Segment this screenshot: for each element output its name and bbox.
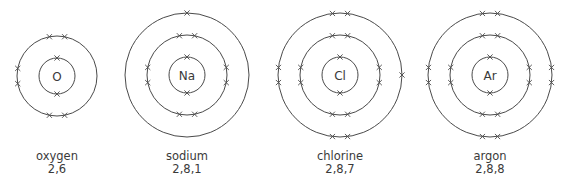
element-symbol: O [52,70,61,84]
atom-sodium: Na [125,10,249,137]
atom-configuration: 2,8,1 [127,163,247,176]
atom-label-chlorine: chlorine 2,8,7 [280,150,400,176]
atom-configuration: 2,8,8 [430,163,550,176]
element-symbol: Na [179,69,195,83]
element-symbol: Cl [334,69,346,83]
element-symbol: Ar [483,69,496,83]
atom-argon: Ar [426,11,554,139]
atom-configuration: 2,8,7 [280,163,400,176]
atom-label-oxygen: oxygen 2,6 [0,150,117,176]
atom-label-argon: argon 2,8,8 [430,150,550,176]
atom-label-sodium: sodium 2,8,1 [127,150,247,176]
atom-chlorine: Cl [276,11,405,139]
atom-configuration: 2,6 [0,163,117,176]
atom-oxygen: O [15,34,97,118]
